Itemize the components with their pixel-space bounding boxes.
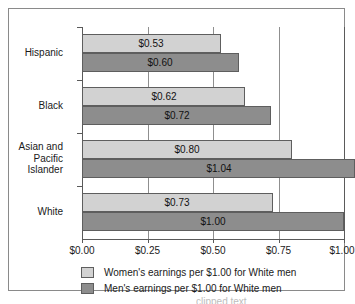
bar-label-men-hispanic: $0.60 [147,53,172,72]
legend-label-men: Men's earnings per $1.00 for White men [104,283,282,294]
bar-label-women-white: $0.73 [164,193,189,212]
bar-label-women-asian-and-pacific-islander: $0.80 [174,140,199,159]
chart-frame: Hispanic Black Asian and Pacific Islande… [8,8,345,291]
x-axis-label-0-75: $0.75 [266,245,291,256]
y-axis-tick-2 [77,133,82,134]
x-axis-tick-0-00 [82,239,83,243]
x-axis-label-0-25: $0.25 [135,245,160,256]
x-axis-tick-0-75 [279,239,280,243]
category-label-black: Black [39,100,63,112]
bar-label-men-asian-and-pacific-islander: $1.04 [206,159,231,178]
gridline-0-75 [279,27,280,239]
legend: Women's earnings per $1.00 for White men… [81,264,296,296]
y-axis-tick-top [77,27,82,28]
x-axis-label-1-00: $1.00 [329,245,354,256]
x-axis-tick-0-50 [213,239,214,243]
y-axis-tick-1 [77,80,82,81]
bar-label-men-white: $1.00 [200,212,225,231]
bar-label-women-hispanic: $0.53 [138,34,163,53]
category-label-white: White [37,206,63,218]
category-label-hispanic: Hispanic [25,47,63,59]
legend-swatch-women-icon [81,267,94,278]
legend-item-women: Women's earnings per $1.00 for White men [81,264,296,280]
legend-item-men: Men's earnings per $1.00 for White men [81,280,296,296]
x-axis-label-0-00: $0.00 [69,245,94,256]
x-axis-tick-1-00 [344,239,345,243]
clipped-caption: clipped text [196,296,247,304]
category-label-asian-and-pacific-islander: Asian and Pacific Islander [19,141,63,176]
x-axis-tick-0-25 [148,239,149,243]
legend-label-women: Women's earnings per $1.00 for White men [104,267,296,278]
bar-label-men-black: $0.72 [164,106,189,125]
gridline-1-00 [344,27,345,239]
y-axis-tick-3 [77,186,82,187]
bar-label-women-black: $0.62 [151,87,176,106]
x-axis-label-0-50: $0.50 [200,245,225,256]
legend-swatch-men-icon [81,283,94,294]
figure: Hispanic Black Asian and Pacific Islande… [0,0,355,304]
